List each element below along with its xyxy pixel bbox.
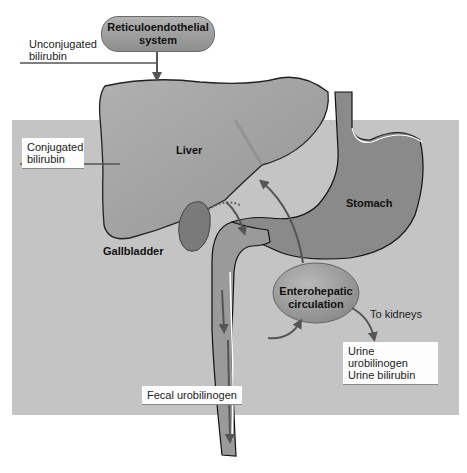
enterohepatic-circulation-label: Enterohepatic circulation [273,285,359,311]
conjugated-bilirubin-label: Conjugated bilirubin [22,138,84,168]
urine-label: Urine urobilinogen Urine bilirubin [343,342,438,384]
intestine-shape [212,222,270,456]
conjugated-line1: Conjugated [27,141,79,153]
conjugated-line2: bilirubin [27,153,79,165]
to-kidneys-label: To kidneys [370,308,422,320]
liver-label: Liver [176,144,202,156]
gallbladder-label: Gallbladder [103,245,164,257]
unconjugated-line2: bilirubin [29,50,97,62]
urine-bilirubin: Urine bilirubin [348,369,433,381]
enterohepatic-line2: circulation [273,298,359,311]
unconjugated-line1: Unconjugated [29,38,97,50]
unconjugated-bilirubin-label: Unconjugated bilirubin [29,38,97,62]
fecal-urobilinogen-label: Fecal urobilinogen [142,386,242,404]
reticuloendothelial-line2: system [139,34,177,47]
reticuloendothelial-line1: Reticuloendothelial [107,21,208,34]
urine-urobilinogen: Urine urobilinogen [348,345,433,369]
enterohepatic-line1: Enterohepatic [273,285,359,298]
reticuloendothelial-system-node: Reticuloendothelial system [101,16,215,52]
bilirubin-diagram: Reticuloendothelial system Unconjugated … [0,0,467,473]
liver-shape [100,77,329,238]
stomach-label: Stomach [346,197,392,209]
